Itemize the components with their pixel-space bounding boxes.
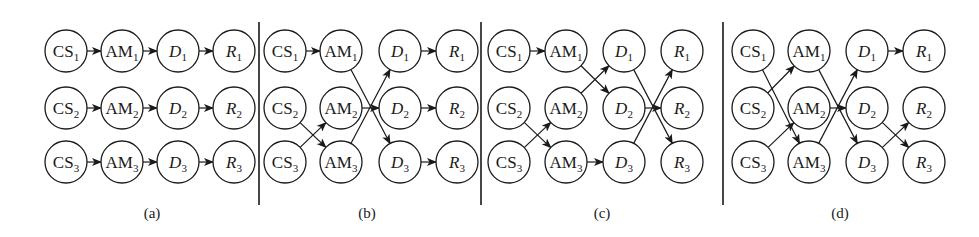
node-d3: D3 bbox=[157, 141, 199, 183]
node-cs3: CS3 bbox=[488, 141, 530, 183]
panel-d: CS1CS2CS3AM1AM2AM3D1D2D3R1R2R3(d) bbox=[732, 30, 945, 222]
node-cs3: CS3 bbox=[732, 141, 774, 183]
node-am1: AM1 bbox=[788, 30, 830, 72]
panel-c: CS1CS2CS3AM1AM2AM3D1D2D3R1R2R3(c) bbox=[488, 30, 703, 222]
node-am2: AM2 bbox=[545, 87, 587, 129]
node-r3: R3 bbox=[903, 141, 945, 183]
node-cs2: CS2 bbox=[264, 87, 306, 129]
node-d2: D2 bbox=[379, 87, 421, 129]
panel-caption: (a) bbox=[144, 205, 161, 222]
node-am2: AM2 bbox=[101, 87, 143, 129]
node-am3: AM3 bbox=[320, 141, 362, 183]
node-am2: AM2 bbox=[320, 87, 362, 129]
node-cs2: CS2 bbox=[732, 87, 774, 129]
node-r3: R3 bbox=[436, 141, 478, 183]
node-r1: R1 bbox=[903, 30, 945, 72]
node-am2: AM2 bbox=[788, 87, 830, 129]
node-d1: D1 bbox=[846, 30, 888, 72]
node-cs1: CS1 bbox=[45, 30, 87, 72]
panels: CS1CS2CS3AM1AM2AM3D1D2D3R1R2R3(a)CS1CS2C… bbox=[45, 30, 945, 222]
panel-caption: (b) bbox=[358, 205, 376, 222]
node-d2: D2 bbox=[157, 87, 199, 129]
process-flow-figure: CS1CS2CS3AM1AM2AM3D1D2D3R1R2R3(a)CS1CS2C… bbox=[0, 0, 979, 237]
node-am1: AM1 bbox=[101, 30, 143, 72]
node-d3: D3 bbox=[603, 141, 645, 183]
node-d2: D2 bbox=[603, 87, 645, 129]
node-cs1: CS1 bbox=[732, 30, 774, 72]
node-d1: D1 bbox=[379, 30, 421, 72]
node-r1: R1 bbox=[436, 30, 478, 72]
node-r2: R2 bbox=[903, 87, 945, 129]
node-am3: AM3 bbox=[788, 141, 830, 183]
panel-caption: (c) bbox=[594, 205, 611, 222]
node-am3: AM3 bbox=[545, 141, 587, 183]
node-cs3: CS3 bbox=[45, 141, 87, 183]
node-am1: AM1 bbox=[545, 30, 587, 72]
node-cs2: CS2 bbox=[45, 87, 87, 129]
panel-a: CS1CS2CS3AM1AM2AM3D1D2D3R1R2R3(a) bbox=[45, 30, 255, 222]
node-am1: AM1 bbox=[320, 30, 362, 72]
node-r2: R2 bbox=[213, 87, 255, 129]
node-d1: D1 bbox=[603, 30, 645, 72]
node-d2: D2 bbox=[846, 87, 888, 129]
node-cs2: CS2 bbox=[488, 87, 530, 129]
node-cs1: CS1 bbox=[264, 30, 306, 72]
panel-b: CS1CS2CS3AM1AM2AM3D1D2D3R1R2R3(b) bbox=[264, 30, 478, 222]
panel-caption: (d) bbox=[831, 205, 849, 222]
node-r1: R1 bbox=[661, 30, 703, 72]
node-cs1: CS1 bbox=[488, 30, 530, 72]
edge-cs2-to-am1 bbox=[768, 66, 795, 93]
node-d1: D1 bbox=[157, 30, 199, 72]
edge-cs3-to-am2 bbox=[768, 123, 794, 148]
node-am3: AM3 bbox=[101, 141, 143, 183]
node-r1: R1 bbox=[213, 30, 255, 72]
node-r3: R3 bbox=[213, 141, 255, 183]
node-r2: R2 bbox=[661, 87, 703, 129]
node-cs3: CS3 bbox=[264, 141, 306, 183]
node-d3: D3 bbox=[379, 141, 421, 183]
node-d3: D3 bbox=[846, 141, 888, 183]
node-r2: R2 bbox=[436, 87, 478, 129]
node-r3: R3 bbox=[661, 141, 703, 183]
edges bbox=[763, 51, 909, 148]
